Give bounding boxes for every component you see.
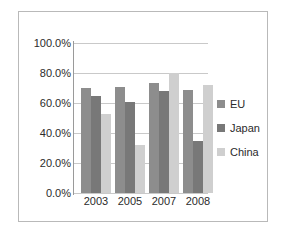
legend-label-japan: Japan bbox=[230, 123, 260, 134]
bar-eu-2005 bbox=[115, 87, 125, 193]
y-axis-line bbox=[73, 41, 74, 195]
y-tick-label: 60.0% bbox=[23, 98, 71, 109]
legend-item-china[interactable]: China bbox=[217, 140, 281, 164]
bar-china-2005 bbox=[135, 145, 145, 193]
bar-eu-2008 bbox=[183, 90, 193, 194]
y-tick-label: 20.0% bbox=[23, 158, 71, 169]
bar-japan-2003 bbox=[91, 96, 101, 194]
bar-japan-2005 bbox=[125, 102, 135, 194]
bar-group-2008 bbox=[181, 43, 215, 193]
legend-swatch-icon-japan bbox=[217, 124, 225, 132]
x-tick-label-2005: 2005 bbox=[113, 196, 147, 207]
bar-eu-2003 bbox=[81, 88, 91, 193]
x-axis-tick-labels: 2003 2005 2007 2008 bbox=[73, 196, 208, 212]
chart-frame: 100.0% 80.0% 60.0% 40.0% 20.0% 0.0% 2003… bbox=[18, 11, 268, 222]
x-tick-label-2008: 2008 bbox=[181, 196, 215, 207]
legend-swatch-icon-china bbox=[217, 148, 225, 156]
legend-label-china: China bbox=[230, 147, 259, 158]
bar-japan-2008 bbox=[193, 141, 203, 194]
bar-china-2007 bbox=[169, 73, 179, 193]
legend-item-japan[interactable]: Japan bbox=[217, 116, 281, 140]
bar-group-2003 bbox=[79, 43, 113, 193]
gridline-0 bbox=[73, 193, 208, 194]
legend-item-eu[interactable]: EU bbox=[217, 92, 281, 116]
y-tick-label: 80.0% bbox=[23, 68, 71, 79]
y-axis-tick-labels: 100.0% 80.0% 60.0% 40.0% 20.0% 0.0% bbox=[19, 12, 71, 221]
y-tick-label: 0.0% bbox=[23, 188, 71, 199]
legend-swatch-icon-eu bbox=[217, 100, 225, 108]
y-tick-label: 100.0% bbox=[23, 38, 71, 49]
y-tick-label: 40.0% bbox=[23, 128, 71, 139]
x-tick-label-2007: 2007 bbox=[147, 196, 181, 207]
bar-group-2005 bbox=[113, 43, 147, 193]
bar-group-2007 bbox=[147, 43, 181, 193]
plot-area bbox=[73, 43, 208, 193]
chart-legend: EU Japan China bbox=[217, 92, 281, 164]
bar-eu-2007 bbox=[149, 83, 159, 193]
bar-japan-2007 bbox=[159, 91, 169, 193]
x-tick-label-2003: 2003 bbox=[79, 196, 113, 207]
bar-china-2008 bbox=[203, 85, 213, 193]
bar-china-2003 bbox=[101, 114, 111, 194]
legend-label-eu: EU bbox=[230, 99, 245, 110]
